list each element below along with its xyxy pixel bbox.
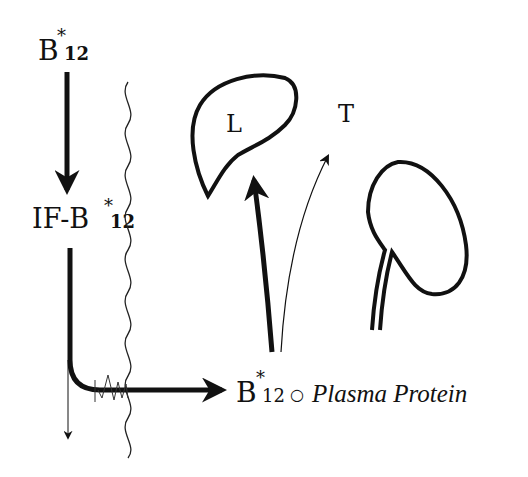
label-liver: L: [226, 110, 242, 138]
svg-text:12: 12: [110, 211, 135, 232]
svg-text:○: ○: [290, 385, 304, 404]
liver-shape: [192, 75, 296, 196]
svg-text:B: B: [236, 376, 257, 409]
svg-text:B: B: [38, 34, 59, 67]
label-b12-top: B * 12: [38, 25, 89, 67]
label-if-b12: IF-B * 12: [32, 195, 135, 234]
arrow-to-tissue: [281, 156, 328, 352]
svg-text:12: 12: [262, 385, 285, 406]
arrow-to-liver: [254, 180, 272, 352]
svg-text:12: 12: [64, 43, 89, 64]
label-b12-plasma-protein: B * 12 ○ Plasma Protein: [236, 367, 467, 409]
absorption-pathway-arrow: [70, 248, 222, 390]
intestinal-membrane-wavy-line: [125, 82, 131, 458]
label-tissue: T: [338, 100, 354, 128]
svg-text:Plasma Protein: Plasma Protein: [311, 380, 467, 407]
kidney-shape: [368, 162, 467, 330]
b12-absorption-diagram: B * 12 IF-B * 12 B * 12 ○ Plasma Protein…: [0, 0, 528, 477]
svg-text:IF-B: IF-B: [32, 203, 89, 234]
